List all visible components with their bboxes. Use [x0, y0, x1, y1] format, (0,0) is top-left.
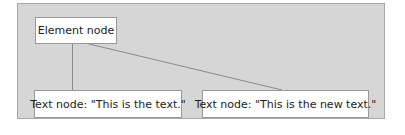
text-node-original: Text node: "This is the text."	[34, 90, 182, 118]
text-node-new: Text node: "This is the new text."	[202, 90, 369, 118]
element-node: Element node	[35, 17, 117, 44]
text-node-new-label: Text node: "This is the new text."	[195, 98, 377, 111]
element-node-label: Element node	[38, 24, 115, 37]
edge-element-to-text2	[85, 43, 282, 90]
text-node-original-label: Text node: "This is the text."	[30, 98, 186, 111]
